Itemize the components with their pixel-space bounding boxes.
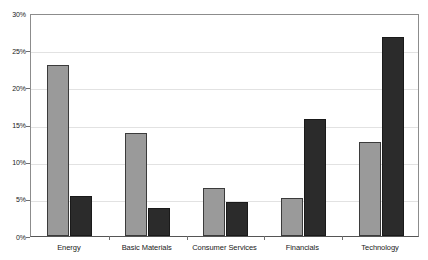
y-tick-label-5: 5% (2, 196, 26, 203)
y-tick-label-20: 20% (2, 85, 26, 92)
x-tick-mark-1 (109, 236, 110, 240)
bar-basic-materials-series-1 (125, 133, 147, 236)
bar-consumer-services-series-2 (226, 202, 248, 236)
bar-financials-series-2 (304, 119, 326, 236)
bar-technology-series-1 (359, 142, 381, 236)
x-label-financials: Financials (263, 244, 341, 252)
y-tick-label-25: 25% (2, 48, 26, 55)
x-label-basic-materials: Basic Materials (108, 244, 186, 252)
gridline-25 (31, 52, 418, 53)
x-label-consumer-services: Consumer Services (186, 244, 264, 252)
bar-technology-series-2 (382, 37, 404, 236)
plot-area (30, 14, 419, 237)
bar-consumer-services-series-1 (203, 188, 225, 236)
bar-energy-series-2 (70, 196, 92, 236)
x-label-energy: Energy (30, 244, 108, 252)
gridline-15 (31, 127, 418, 128)
y-tick-label-30: 30% (2, 11, 26, 18)
bar-chart: 30%25%20%15%10%5%0% EnergyBasic Material… (0, 0, 428, 260)
y-tick-label-10: 10% (2, 159, 26, 166)
corner-artifact (0, 253, 8, 260)
x-tick-mark-2 (187, 236, 188, 240)
bar-financials-series-1 (281, 198, 303, 236)
bar-basic-materials-series-2 (148, 208, 170, 236)
y-tick-mark-0 (26, 237, 30, 238)
y-tick-label-15: 15% (2, 122, 26, 129)
x-tick-mark-3 (264, 236, 265, 240)
y-tick-label-0: 0% (2, 234, 26, 241)
x-label-technology: Technology (341, 244, 419, 252)
bar-energy-series-1 (47, 65, 69, 236)
x-tick-mark-4 (342, 236, 343, 240)
gridline-20 (31, 89, 418, 90)
